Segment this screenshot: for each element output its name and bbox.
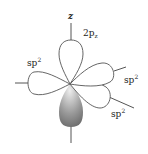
z-axis-label: z bbox=[67, 11, 74, 21]
sp2-label-lower-right: sp2 bbox=[111, 107, 125, 119]
sp2-label-left: sp2 bbox=[27, 56, 41, 68]
sp2-label-upper-right: sp2 bbox=[124, 73, 138, 85]
upper-right-sp2-axis bbox=[114, 67, 126, 71]
left-sp2-lobe bbox=[28, 72, 70, 95]
sp2-orbital-diagram: z 2pz sp2 sp2 sp2 bbox=[0, 0, 148, 154]
2pz-label: 2pz bbox=[83, 28, 98, 39]
